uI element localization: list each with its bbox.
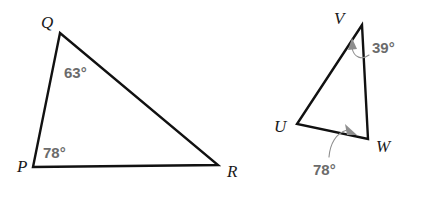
vertex-label-p: P (16, 157, 27, 176)
vertex-label-q: Q (41, 13, 53, 32)
angle-label-p: 78° (43, 144, 66, 161)
leader-line-v (352, 48, 369, 58)
leader-arrowhead-w (345, 124, 357, 135)
vertex-label-w: W (376, 137, 392, 156)
triangle-pqr: Q P R 63° 78° (16, 13, 238, 181)
geometry-figure: Q P R 63° 78° V U W 39° 78° (0, 0, 421, 197)
vertex-label-u: U (274, 117, 288, 136)
vertex-label-v: V (334, 9, 347, 28)
angle-annotation-v: 39° (348, 38, 395, 58)
vertex-label-r: R (226, 162, 238, 181)
angle-label-v: 39° (372, 39, 395, 56)
geometry-canvas: Q P R 63° 78° V U W 39° 78° (0, 0, 421, 197)
angle-label-q: 63° (64, 64, 87, 81)
triangle-uvw-outline (297, 25, 368, 139)
triangle-uvw: V U W 39° 78° (274, 9, 395, 178)
angle-label-w: 78° (313, 161, 336, 178)
